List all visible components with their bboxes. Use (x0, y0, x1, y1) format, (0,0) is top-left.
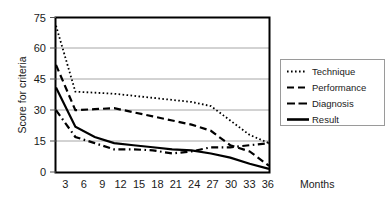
x-tick-label-6: 6 (81, 178, 87, 190)
x-axis-title: Months (300, 178, 334, 190)
x-tick-label-36: 36 (262, 178, 274, 190)
x-tick-label-12: 12 (114, 178, 126, 190)
x-tick-label-24: 24 (188, 178, 200, 190)
x-tick-label-3: 3 (62, 178, 68, 190)
x-tick-label-21: 21 (170, 178, 182, 190)
y-tick-label-60: 60 (34, 42, 46, 54)
x-tick-label-15: 15 (133, 178, 145, 190)
legend: Technique Performance Diagnosis Result (281, 60, 385, 126)
y-tick-label-75: 75 (34, 12, 46, 24)
y-tick-label-45: 45 (34, 73, 46, 85)
legend-label-result: Result (312, 114, 339, 125)
y-axis-title: Score for criteria (16, 56, 28, 133)
y-tick-label-30: 30 (34, 104, 46, 116)
x-tick-label-27: 27 (206, 178, 218, 190)
x-tick-label-18: 18 (151, 178, 163, 190)
chart-canvas: 75 60 45 30 15 0 3 6 9 12 15 18 21 24 27… (0, 0, 391, 206)
y-tick-label-0: 0 (40, 166, 46, 178)
legend-label-technique: Technique (312, 66, 355, 77)
x-tick-label-30: 30 (225, 178, 237, 190)
legend-label-performance: Performance (312, 82, 366, 93)
legend-label-diagnosis: Diagnosis (312, 98, 354, 109)
x-tick-label-33: 33 (243, 178, 255, 190)
chart-figure: 75 60 45 30 15 0 3 6 9 12 15 18 21 24 27… (0, 0, 391, 206)
y-tick-label-15: 15 (34, 135, 46, 147)
x-tick-label-9: 9 (99, 178, 105, 190)
